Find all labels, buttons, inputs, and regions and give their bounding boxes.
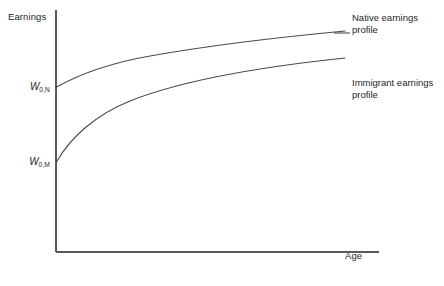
native-annotation-line-2: profile (352, 24, 418, 36)
x-axis-label: Age (345, 250, 362, 262)
immigrant-earnings-annotation: Immigrant earnings profile (352, 77, 433, 101)
immigrant-earnings-curve (57, 58, 346, 162)
y-tick-immigrant-intercept: W0,M (10, 156, 50, 167)
immigrant-intercept-variable: W (29, 156, 38, 167)
native-annotation-line-1: Native earnings (352, 12, 418, 24)
native-intercept-variable: W (30, 81, 39, 92)
native-intercept-subscript: 0,N (39, 86, 50, 93)
native-earnings-annotation: Native earnings profile (352, 12, 418, 36)
immigrant-intercept-subscript: 0,M (39, 161, 50, 168)
native-earnings-curve (57, 31, 346, 87)
earnings-profile-chart: Earnings Age W0,N W0,M Native earnings p… (0, 0, 444, 286)
immigrant-annotation-line-2: profile (352, 89, 433, 101)
y-tick-native-intercept: W0,N (10, 81, 50, 92)
chart-canvas (0, 0, 444, 286)
immigrant-annotation-line-1: Immigrant earnings (352, 77, 433, 89)
y-axis-label: Earnings (8, 11, 46, 23)
